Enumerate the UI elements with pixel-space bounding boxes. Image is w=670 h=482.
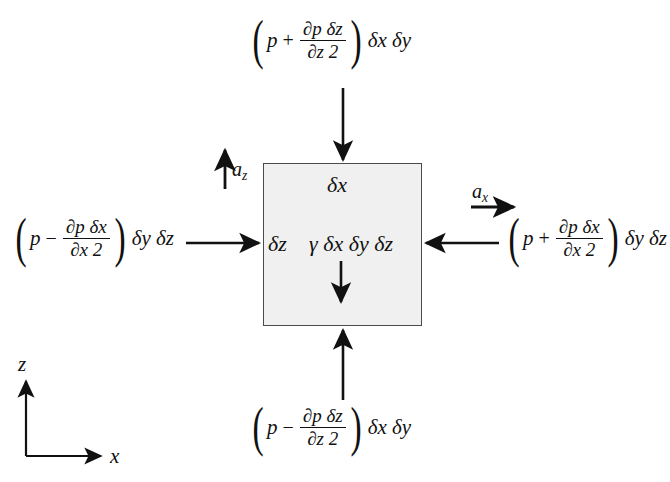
partial-derivative-fraction: ∂p δz ∂z 2 <box>300 406 346 449</box>
area-term: δy δz <box>129 226 174 251</box>
box-left-dimension-label: δz <box>268 231 287 257</box>
fraction-numerator: ∂p δx <box>556 217 603 238</box>
close-paren: ) <box>114 216 125 260</box>
close-paren: ) <box>350 405 361 449</box>
acceleration-x-symbol: a <box>472 180 482 202</box>
pressure-symbol: p <box>30 226 41 251</box>
open-paren: ( <box>508 216 519 260</box>
fraction-numerator: ∂p δz <box>300 406 346 427</box>
fluid-element-free-body-diagram: ( p + ∂p δz ∂z 2 ) δx δy ( p − ∂p δz ∂z … <box>0 0 670 482</box>
fraction-denominator: ∂z 2 <box>300 427 346 449</box>
acceleration-x-subscript: x <box>482 190 488 205</box>
area-term: δx δy <box>365 28 411 53</box>
open-paren: ( <box>15 216 26 260</box>
pressure-symbol: p <box>267 28 278 53</box>
operator: + <box>277 29 298 52</box>
acceleration-z-symbol: a <box>232 158 242 180</box>
box-top-dimension-label: δx <box>327 172 347 198</box>
fraction-numerator: ∂p δz <box>300 19 346 40</box>
acceleration-z-label: az <box>232 158 247 184</box>
fraction-denominator: ∂x 2 <box>556 238 603 260</box>
area-term: δy δz <box>622 226 667 251</box>
operator: + <box>533 227 554 250</box>
open-paren: ( <box>252 405 263 449</box>
fraction-denominator: ∂z 2 <box>300 40 346 62</box>
acceleration-x-label: ax <box>472 180 488 206</box>
bottom-force-expression: ( p − ∂p δz ∂z 2 ) δx δy <box>249 405 411 449</box>
pressure-symbol: p <box>523 226 534 251</box>
partial-derivative-fraction: ∂p δz ∂z 2 <box>300 19 346 62</box>
box-weight-label: γ δx δy δz <box>309 231 393 257</box>
axis-z-label: z <box>18 352 26 377</box>
area-term: δx δy <box>365 415 411 440</box>
operator: − <box>277 416 298 439</box>
fraction-denominator: ∂x 2 <box>63 238 110 260</box>
open-paren: ( <box>252 18 263 62</box>
partial-derivative-fraction: ∂p δx ∂x 2 <box>556 217 603 260</box>
operator: − <box>40 227 61 250</box>
left-force-expression: ( p − ∂p δx ∂x 2 ) δy δz <box>12 216 174 260</box>
close-paren: ) <box>607 216 618 260</box>
acceleration-z-subscript: z <box>242 168 247 183</box>
pressure-symbol: p <box>267 415 278 440</box>
axis-x-label: x <box>110 444 119 469</box>
fraction-numerator: ∂p δx <box>63 217 110 238</box>
close-paren: ) <box>350 18 361 62</box>
right-force-expression: ( p + ∂p δx ∂x 2 ) δy δz <box>505 216 667 260</box>
top-force-expression: ( p + ∂p δz ∂z 2 ) δx δy <box>249 18 411 62</box>
partial-derivative-fraction: ∂p δx ∂x 2 <box>63 217 110 260</box>
